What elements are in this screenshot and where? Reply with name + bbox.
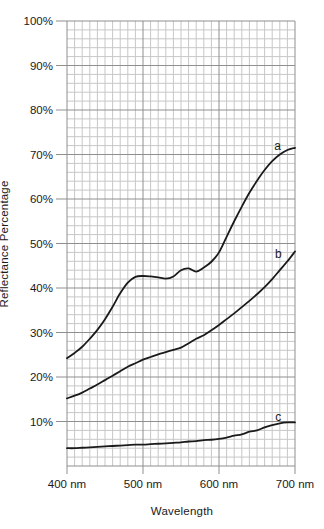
y-tick-label: 10% — [30, 416, 53, 428]
reflectance-chart: 10%20%30%40%50%60%70%80%90%100%400 nm500… — [0, 0, 324, 529]
y-tick-label: 100% — [24, 15, 53, 27]
x-tick-label: 700 nm — [276, 478, 314, 490]
curve-label-b: b — [275, 247, 282, 261]
reflectance-figure: 10%20%30%40%50%60%70%80%90%100%400 nm500… — [0, 0, 324, 529]
x-tick-label: 400 nm — [48, 478, 86, 490]
x-axis-title-text: Wavelength — [151, 505, 213, 517]
y-tick-label: 90% — [30, 60, 53, 72]
y-tick-label: 60% — [30, 193, 53, 205]
y-tick-label: 50% — [30, 238, 53, 250]
x-axis-title: Wavelength — [0, 505, 324, 517]
y-axis-title-text: Reflectance Percentage — [0, 180, 10, 307]
curve-label-c: c — [275, 410, 281, 424]
curve-label-a: a — [274, 139, 281, 153]
y-tick-label: 20% — [30, 371, 53, 383]
y-tick-label: 80% — [30, 104, 53, 116]
x-tick-label: 500 nm — [124, 478, 162, 490]
y-tick-label: 40% — [30, 282, 53, 294]
y-axis-title: Reflectance Percentage — [0, 144, 10, 344]
y-tick-label: 70% — [30, 149, 53, 161]
x-tick-label: 600 nm — [200, 478, 238, 490]
y-tick-label: 30% — [30, 327, 53, 339]
